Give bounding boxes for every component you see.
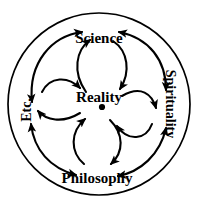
node-label-etc: Etc. <box>19 98 34 122</box>
center-label-reality: Reality <box>76 89 122 105</box>
node-label-spirituality: Spirituality <box>163 70 178 138</box>
reality-relations-diagram: Science Reality Spirituality Philosophy … <box>0 0 198 207</box>
diagram-canvas: Science Reality Spirituality Philosophy … <box>0 0 198 207</box>
node-label-science: Science <box>75 30 123 46</box>
node-label-philosophy: Philosophy <box>62 170 133 186</box>
